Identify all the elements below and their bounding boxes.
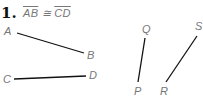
- segment-rs: [166, 36, 197, 82]
- segments-diagram: A B C D P Q R S: [0, 0, 203, 97]
- point-label-c: C: [3, 73, 11, 85]
- point-label-a: A: [3, 25, 11, 37]
- point-label-b: B: [87, 49, 94, 61]
- point-label-p: P: [134, 85, 142, 97]
- segment-cd: [14, 76, 86, 79]
- segment-ab: [17, 33, 84, 53]
- point-label-r: R: [160, 85, 168, 97]
- point-label-q: Q: [142, 23, 151, 35]
- segment-pq: [138, 38, 145, 82]
- point-label-d: D: [89, 69, 97, 81]
- point-label-s: S: [195, 20, 203, 32]
